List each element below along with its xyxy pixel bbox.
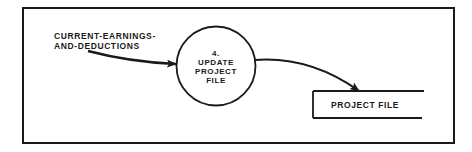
input-flow-arrow <box>88 51 176 64</box>
input-flow-label-line1: CURRENT-EARNINGS- <box>54 31 156 41</box>
output-flow-arrow <box>255 60 359 91</box>
process-label-line3: FILE <box>206 76 226 85</box>
process-number: 4. <box>212 49 220 58</box>
process-label-line2: PROJECT <box>195 67 237 76</box>
data-store-label: PROJECT FILE <box>331 100 399 110</box>
data-flow-diagram: CURRENT-EARNINGS- AND-DEDUCTIONS 4. UPDA… <box>0 0 472 152</box>
process-label-line1: UPDATE <box>198 58 234 67</box>
diagram-frame <box>23 8 454 143</box>
input-flow-label-line2: AND-DEDUCTIONS <box>54 41 140 51</box>
